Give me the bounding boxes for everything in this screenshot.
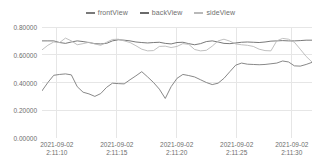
legend-item-sideview[interactable]: sideView	[194, 9, 235, 17]
y-tick-label: 0.80000	[14, 24, 38, 31]
plot-area	[42, 27, 312, 138]
y-axis: 0.80000 0.60000 0.40000 0.20000 0.00000	[0, 27, 40, 138]
x-tick-label: 2021-09-02 2:11:30	[275, 141, 308, 157]
legend-label-sideview: sideView	[206, 9, 235, 17]
x-tick-label: 2021-09-02 2:11:10	[40, 141, 73, 157]
x-tick-label: 2021-09-02 2:11:25	[220, 141, 253, 157]
line-swatch-icon	[194, 12, 203, 14]
legend-label-frontview: frontView	[98, 9, 128, 17]
x-tick-time: 2:11:20	[160, 149, 193, 157]
x-tick-time: 2:11:10	[40, 149, 73, 157]
x-tick-date: 2021-09-02	[40, 141, 73, 149]
x-tick-time: 2:11:30	[275, 149, 308, 157]
x-tick-time: 2:11:15	[100, 149, 133, 157]
chart-legend: frontView backView sideView	[0, 6, 321, 20]
x-tick-date: 2021-09-02	[220, 141, 253, 149]
line-chart: frontView backView sideView 0.80000 0.60…	[0, 0, 321, 165]
legend-item-frontview[interactable]: frontView	[86, 9, 128, 17]
y-tick-label: 0.40000	[14, 79, 38, 86]
legend-label-backview: backView	[152, 9, 183, 17]
x-tick-date: 2021-09-02	[100, 141, 133, 149]
x-tick-date: 2021-09-02	[275, 141, 308, 149]
legend-item-backview[interactable]: backView	[140, 9, 183, 17]
y-tick-label: 0.00000	[14, 135, 38, 142]
x-axis: 2021-09-02 2:11:10 2021-09-02 2:11:15 20…	[42, 141, 312, 163]
line-swatch-icon	[86, 12, 95, 14]
plot-svg	[42, 27, 312, 138]
y-tick-label: 0.60000	[14, 51, 38, 58]
x-tick-label: 2021-09-02 2:11:15	[100, 141, 133, 157]
y-tick-label: 0.20000	[14, 107, 38, 114]
x-tick-date: 2021-09-02	[160, 141, 193, 149]
x-tick-time: 2:11:25	[220, 149, 253, 157]
x-tick-label: 2021-09-02 2:11:20	[160, 141, 193, 157]
line-swatch-icon	[140, 12, 149, 14]
